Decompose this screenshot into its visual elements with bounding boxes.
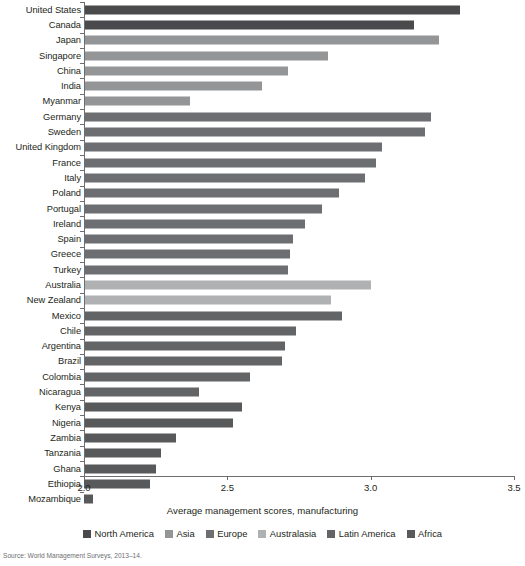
bar	[84, 51, 328, 60]
bar	[84, 5, 460, 14]
bar-category-label: Ghana	[53, 464, 81, 474]
bar-row: Ireland	[0, 216, 525, 231]
bar-category-label: Japan	[56, 35, 81, 45]
y-axis-line	[84, 2, 85, 476]
bar-category-label: India	[61, 81, 81, 91]
bar-category-label: Argentina	[42, 341, 81, 351]
bar	[84, 235, 293, 244]
bar-row: Turkey	[0, 262, 525, 277]
legend-item: Africa	[407, 528, 442, 539]
x-axis-title: Average management scores, manufacturing	[0, 505, 525, 516]
bar	[84, 36, 439, 45]
x-axis-tick-label: 3.5	[507, 482, 520, 493]
bar	[84, 388, 199, 397]
bar-category-label: Kenya	[55, 402, 81, 412]
legend-swatch-icon	[83, 530, 91, 538]
chart-legend: North AmericaAsiaEuropeAustralasiaLatin …	[0, 528, 525, 539]
bar-chart: United StatesCanadaJapanSingaporeChinaIn…	[0, 0, 525, 566]
legend-label: Asia	[176, 528, 194, 539]
bar-row: Canada	[0, 17, 525, 32]
bar-category-label: Chile	[60, 326, 81, 336]
bar-row: New Zealand	[0, 293, 525, 308]
bar	[84, 418, 233, 427]
bar-row: Brazil	[0, 354, 525, 369]
legend-label: Australasia	[270, 528, 316, 539]
bar-category-label: Myanmar	[43, 96, 81, 106]
bar-category-label: Tanzania	[44, 448, 81, 458]
bar-category-label: Nicaragua	[39, 387, 81, 397]
legend-label: North America	[94, 528, 153, 539]
plot-area: United StatesCanadaJapanSingaporeChinaIn…	[0, 0, 525, 478]
bar-category-label: China	[57, 66, 81, 76]
legend-swatch-icon	[165, 530, 173, 538]
legend-label: Africa	[418, 528, 442, 539]
bar-category-label: United Kingdom	[16, 142, 81, 152]
bar-category-label: Portugal	[47, 204, 81, 214]
bar-row: Germany	[0, 109, 525, 124]
bar-category-label: Singapore	[39, 51, 81, 61]
bar-row: Japan	[0, 33, 525, 48]
x-axis-tick-label: 2.5	[221, 482, 234, 493]
bar-category-label: Greece	[51, 249, 81, 259]
bar-category-label: Zambia	[50, 433, 81, 443]
bar-category-label: New Zealand	[27, 295, 81, 305]
bar-category-label: United States	[26, 5, 81, 15]
bar-row: Zambia	[0, 430, 525, 445]
legend-swatch-icon	[407, 530, 415, 538]
bar-row: Spain	[0, 231, 525, 246]
bar	[84, 265, 288, 274]
x-axis-tick-label: 3.0	[364, 482, 377, 493]
bar-category-label: Colombia	[42, 372, 81, 382]
legend-label: Europe	[217, 528, 247, 539]
bar-category-label: Turkey	[53, 265, 81, 275]
bar-row: Ghana	[0, 461, 525, 476]
bar	[84, 143, 382, 152]
bar-row: Australia	[0, 277, 525, 292]
bar	[84, 280, 371, 289]
legend-item: Australasia	[258, 528, 316, 539]
bar	[84, 357, 282, 366]
bar	[84, 173, 365, 182]
bar-row: Sweden	[0, 124, 525, 139]
bar	[84, 66, 288, 75]
bar-row: Nicaragua	[0, 384, 525, 399]
bar	[84, 326, 296, 335]
bar-category-label: Brazil	[58, 356, 81, 366]
bar	[84, 342, 285, 351]
bar	[84, 433, 176, 442]
bar-row: Portugal	[0, 201, 525, 216]
bar-rows: United StatesCanadaJapanSingaporeChinaIn…	[0, 2, 525, 507]
legend-swatch-icon	[206, 530, 214, 538]
bar-row: Italy	[0, 170, 525, 185]
bar	[84, 128, 425, 137]
source-note: Source: World Management Surveys, 2013–1…	[3, 552, 142, 559]
bar-category-label: Ireland	[53, 219, 81, 229]
legend-item: Europe	[206, 528, 248, 539]
legend-item: Asia	[165, 528, 195, 539]
bar	[84, 311, 342, 320]
x-axis-tick	[227, 476, 228, 480]
bar	[84, 97, 190, 106]
legend-item: Latin America	[327, 528, 395, 539]
bar	[84, 82, 262, 91]
bar-category-label: Italy	[64, 173, 81, 183]
bar-category-label: Mexico	[52, 311, 81, 321]
bar	[84, 372, 250, 381]
bar	[84, 449, 161, 458]
bar-row: Singapore	[0, 48, 525, 63]
bar-row: China	[0, 63, 525, 78]
bar	[84, 296, 331, 305]
legend-item: North America	[83, 528, 154, 539]
bar-category-label: Sweden	[48, 127, 81, 137]
x-axis-tick	[371, 476, 372, 480]
x-axis-tick	[84, 476, 85, 480]
bar-row: Greece	[0, 247, 525, 262]
legend-swatch-icon	[327, 530, 335, 538]
bar-row: Chile	[0, 323, 525, 338]
legend-swatch-icon	[258, 530, 266, 538]
bar	[84, 189, 339, 198]
bar-category-label: France	[52, 158, 81, 168]
bar-row: United States	[0, 2, 525, 17]
bar-row: United Kingdom	[0, 140, 525, 155]
bar-row: Myanmar	[0, 94, 525, 109]
